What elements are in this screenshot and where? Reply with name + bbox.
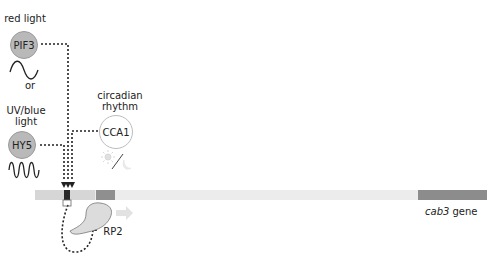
pif3-signal-line xyxy=(41,44,68,180)
sun-icon xyxy=(101,150,115,164)
red-light-wave-icon xyxy=(10,61,38,79)
transcription-direction-arrow xyxy=(116,206,133,220)
day-night-slash xyxy=(112,154,123,169)
moon-icon xyxy=(123,160,131,169)
blue-light-wave-icon xyxy=(9,163,39,178)
convergence-arrowheads xyxy=(61,182,75,188)
rp2-polymerase-shape xyxy=(70,203,112,234)
cca1-signal-line xyxy=(72,131,98,180)
hy5-signal-line xyxy=(40,145,64,180)
